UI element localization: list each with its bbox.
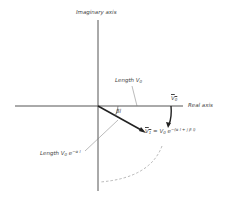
- v0-label: V0: [171, 96, 177, 102]
- length-v0-label: Length V0: [115, 78, 142, 84]
- phasor-diagram: [0, 0, 230, 197]
- v1-equation: V1 = V0 e−(α l + j β l): [145, 128, 196, 135]
- leader-length-v0: [132, 86, 137, 106]
- leader-length-decay: [85, 120, 118, 151]
- imaginary-axis-label: Imaginary axis: [76, 10, 117, 16]
- real-axis-label: Real axis: [188, 103, 213, 109]
- dashed-arc: [100, 146, 162, 182]
- angle-label: βl: [116, 109, 121, 115]
- rotation-arrow: [169, 106, 171, 125]
- length-decay-label: Length V0 e−α l: [40, 150, 81, 157]
